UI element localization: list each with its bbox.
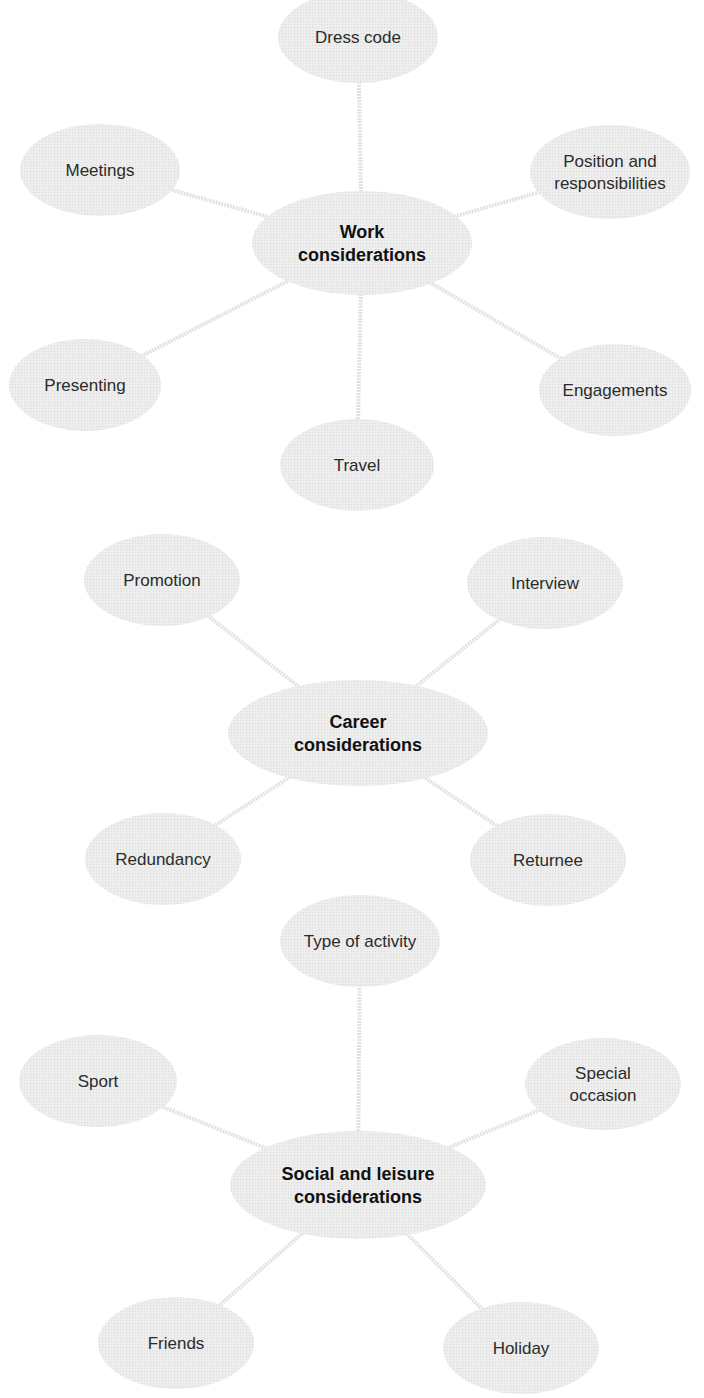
- node-ellipse-special-occasion: [525, 1038, 681, 1130]
- node-label-dress-code: Dress code: [315, 28, 401, 47]
- topic-node-redundancy: Redundancy: [85, 813, 241, 905]
- node-label-friends: Friends: [148, 1334, 205, 1353]
- node-label-interview: Interview: [511, 574, 580, 593]
- node-label-promotion: Promotion: [123, 571, 200, 590]
- hub-label-work: Work: [340, 222, 386, 242]
- topic-node-special-occasion: Specialoccasion: [525, 1038, 681, 1130]
- node-ellipse-position: [530, 125, 690, 219]
- topic-node-interview: Interview: [467, 537, 623, 629]
- node-label-travel: Travel: [334, 456, 381, 475]
- node-label-special-occasion: Special: [575, 1064, 631, 1083]
- hub-ellipse-social: [230, 1131, 486, 1239]
- hub-node-career: Careerconsiderations: [228, 680, 488, 786]
- topic-node-position: Position andresponsibilities: [530, 125, 690, 219]
- topic-node-holiday: Holiday: [443, 1302, 599, 1394]
- topic-node-type-of-activity: Type of activity: [280, 895, 440, 987]
- topic-node-friends: Friends: [98, 1297, 254, 1389]
- hub-label-career: Career: [329, 712, 386, 732]
- topic-node-sport: Sport: [19, 1035, 177, 1127]
- topic-node-promotion: Promotion: [84, 534, 240, 626]
- node-label-position: responsibilities: [554, 174, 666, 193]
- topic-node-travel: Travel: [280, 419, 434, 511]
- topic-node-dress-code: Dress code: [278, 0, 438, 83]
- hub-node-social: Social and leisureconsiderations: [230, 1131, 486, 1239]
- hub-ellipse-work: [252, 191, 472, 295]
- node-label-meetings: Meetings: [66, 161, 135, 180]
- node-label-holiday: Holiday: [493, 1339, 550, 1358]
- node-label-presenting: Presenting: [44, 376, 125, 395]
- node-label-position: Position and: [563, 152, 657, 171]
- hub-ellipse-career: [228, 680, 488, 786]
- node-label-returnee: Returnee: [513, 851, 583, 870]
- node-label-redundancy: Redundancy: [115, 850, 211, 869]
- mind-map-diagram: WorkconsiderationsDress codeMeetingsPosi…: [0, 0, 704, 1398]
- topic-node-presenting: Presenting: [9, 339, 161, 431]
- hub-label-social: Social and leisure: [281, 1164, 434, 1184]
- topic-node-meetings: Meetings: [20, 124, 180, 216]
- hub-label-career: considerations: [294, 735, 422, 755]
- hub-label-work: considerations: [298, 245, 426, 265]
- hub-label-social: considerations: [294, 1187, 422, 1207]
- node-label-engagements: Engagements: [563, 381, 668, 400]
- node-layer: WorkconsiderationsDress codeMeetingsPosi…: [9, 0, 691, 1394]
- node-label-sport: Sport: [78, 1072, 119, 1091]
- node-label-special-occasion: occasion: [569, 1086, 636, 1105]
- topic-node-returnee: Returnee: [470, 814, 626, 906]
- topic-node-engagements: Engagements: [539, 344, 691, 436]
- node-label-type-of-activity: Type of activity: [304, 932, 417, 951]
- hub-node-work: Workconsiderations: [252, 191, 472, 295]
